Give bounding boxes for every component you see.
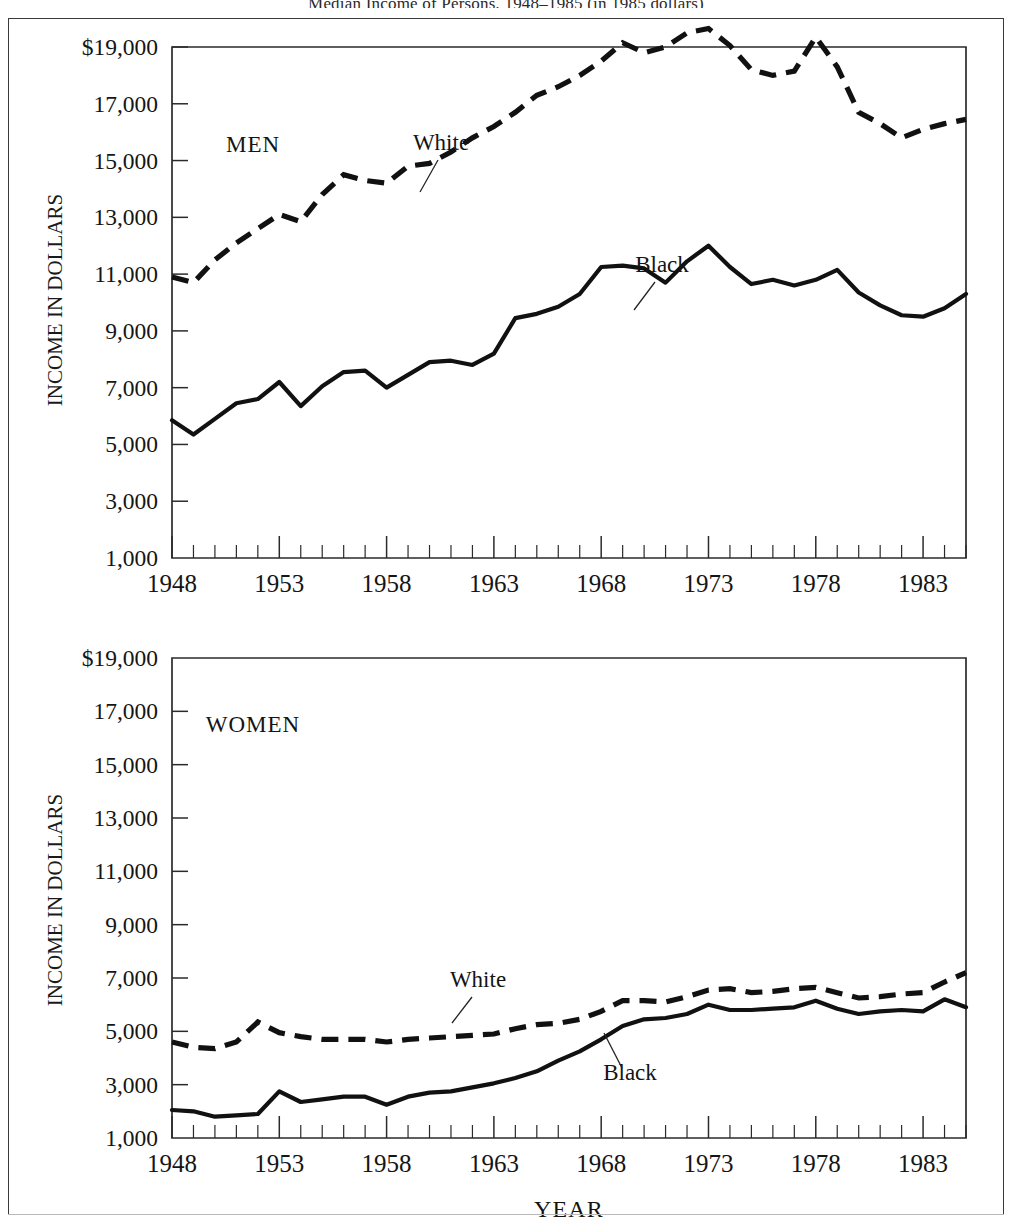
x-tick-label: 1958 — [362, 1150, 412, 1177]
y-axis-title: INCOME IN DOLLARS — [43, 194, 67, 406]
x-tick-label: 1968 — [576, 570, 626, 597]
annotation-black: Black — [603, 1060, 657, 1085]
y-tick-label: 13,000 — [93, 204, 158, 230]
annotation-black: Black — [635, 252, 689, 277]
y-tick-label: 9,000 — [105, 912, 158, 938]
x-tick-label: 1963 — [469, 570, 519, 597]
y-tick-label: 15,000 — [93, 752, 158, 778]
x-tick-label: 1948 — [147, 570, 197, 597]
y-tick-label: 11,000 — [94, 858, 158, 884]
x-tick-label: 1953 — [254, 570, 304, 597]
chart-panel-women: $19,00017,00015,00013,00011,0009,0007,00… — [0, 620, 1012, 1228]
series-line-white — [172, 29, 966, 283]
x-tick-label: 1983 — [898, 1150, 948, 1177]
x-tick-label: 1948 — [147, 1150, 197, 1177]
series-line-black — [172, 999, 966, 1116]
men-chart-svg: $19,00017,00015,00013,00011,0009,0007,00… — [0, 0, 1012, 620]
x-tick-label: 1973 — [683, 570, 733, 597]
y-tick-label: $19,000 — [82, 645, 158, 671]
y-tick-label: 15,000 — [93, 148, 158, 174]
annotation-white-leader — [452, 997, 472, 1023]
y-tick-label: 7,000 — [105, 375, 158, 401]
y-tick-label: 13,000 — [93, 805, 158, 831]
annotation-white: White — [450, 967, 506, 992]
series-line-black — [172, 246, 966, 435]
x-tick-label: 1968 — [576, 1150, 626, 1177]
x-axis-title: YEAR — [534, 1196, 604, 1222]
chart-panel-men: $19,00017,00015,00013,00011,0009,0007,00… — [0, 0, 1012, 620]
x-tick-label: 1963 — [469, 1150, 519, 1177]
x-tick-label: 1973 — [683, 1150, 733, 1177]
y-tick-label: 3,000 — [105, 488, 158, 514]
y-tick-label: 7,000 — [105, 965, 158, 991]
y-tick-label: 11,000 — [94, 261, 158, 287]
y-tick-label: 17,000 — [93, 91, 158, 117]
y-tick-label: 5,000 — [105, 431, 158, 457]
annotation-black-leader — [634, 282, 655, 310]
y-tick-label: 5,000 — [105, 1018, 158, 1044]
x-tick-label: 1953 — [254, 1150, 304, 1177]
y-axis-title: INCOME IN DOLLARS — [43, 794, 67, 1006]
figure-root: Median Income of Persons, 1948–1985 (in … — [0, 0, 1012, 1228]
y-tick-label: 9,000 — [105, 318, 158, 344]
x-tick-label: 1983 — [898, 570, 948, 597]
annotation-white: White — [413, 130, 469, 155]
y-tick-label: 1,000 — [105, 545, 158, 571]
y-tick-label: 3,000 — [105, 1072, 158, 1098]
x-tick-label: 1978 — [791, 1150, 841, 1177]
y-tick-label: $19,000 — [82, 34, 158, 60]
group-label: WOMEN — [206, 712, 300, 737]
group-label: MEN — [226, 132, 280, 157]
bottom-divider — [8, 1214, 1004, 1215]
y-tick-label: 17,000 — [93, 698, 158, 724]
y-tick-label: 1,000 — [105, 1125, 158, 1151]
x-tick-label: 1958 — [362, 570, 412, 597]
women-chart-svg: $19,00017,00015,00013,00011,0009,0007,00… — [0, 620, 1012, 1228]
x-tick-label: 1978 — [791, 570, 841, 597]
